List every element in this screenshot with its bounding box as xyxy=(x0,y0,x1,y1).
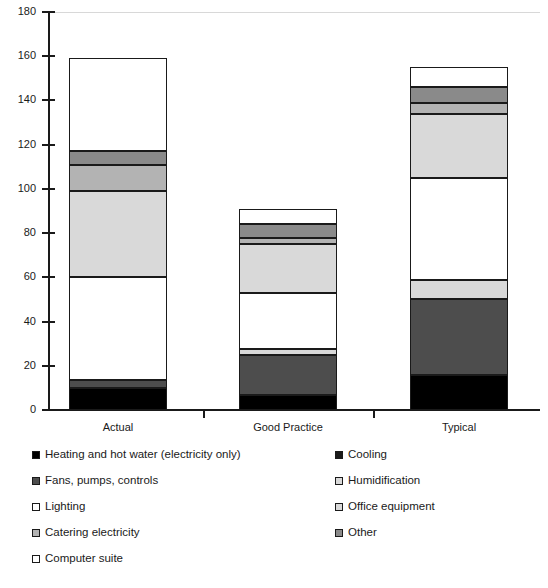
legend-swatch-icon xyxy=(32,529,40,537)
x-axis-category-label: Actual xyxy=(58,421,178,433)
bar-segment-humidification xyxy=(410,280,508,300)
bar-segment-other xyxy=(239,224,337,237)
stacked-bar-chart: 020406080100120140160180 ActualGood Prac… xyxy=(0,0,548,588)
legend-item[interactable]: Humidification xyxy=(335,474,420,487)
x-axis-category-label: Typical xyxy=(399,421,519,433)
bar-actual xyxy=(69,12,167,410)
bar-segment-office-equipment xyxy=(410,114,508,178)
bar-segment-other xyxy=(410,87,508,102)
y-axis-tick-label: 140 xyxy=(2,94,36,105)
legend-item[interactable]: Lighting xyxy=(32,500,85,513)
legend-swatch-icon xyxy=(32,555,40,563)
legend-swatch-icon xyxy=(335,529,343,537)
y-axis-tick-label: 80 xyxy=(2,227,36,238)
bar-segment-computer-suite xyxy=(69,58,167,151)
legend-item[interactable]: Office equipment xyxy=(335,500,435,513)
legend-label: Cooling xyxy=(348,448,387,461)
legend-swatch-icon xyxy=(335,477,343,485)
bar-good-practice xyxy=(239,12,337,410)
legend-label: Other xyxy=(348,526,377,539)
y-axis-tick-label: 60 xyxy=(2,271,36,282)
y-axis-tick-label: 160 xyxy=(2,50,36,61)
bar-segment-fans-pumps-controls xyxy=(69,380,167,388)
bar-segment-heating-and-hot-water-electricity-only xyxy=(69,388,167,410)
legend-label: Heating and hot water (electricity only) xyxy=(45,448,241,461)
bar-typical xyxy=(410,12,508,410)
bar-segment-catering-electricity xyxy=(239,238,337,245)
legend-label: Humidification xyxy=(348,474,420,487)
legend-label: Catering electricity xyxy=(45,526,140,539)
y-axis-tick-label: 40 xyxy=(2,316,36,327)
legend-item[interactable]: Computer suite xyxy=(32,552,123,565)
legend-item[interactable]: Other xyxy=(335,526,377,539)
y-axis-tick-label: 20 xyxy=(2,360,36,371)
x-axis-tick xyxy=(203,409,205,418)
bar-segment-heating-and-hot-water-electricity-only xyxy=(410,375,508,410)
legend-item[interactable]: Cooling xyxy=(335,448,387,461)
y-axis-tick-label: 180 xyxy=(2,6,36,17)
y-axis-tick-label: 0 xyxy=(2,404,36,415)
bar-segment-lighting xyxy=(410,178,508,280)
legend-label: Fans, pumps, controls xyxy=(45,474,158,487)
legend-label: Computer suite xyxy=(45,552,123,565)
legend-swatch-icon xyxy=(335,503,343,511)
bar-segment-humidification xyxy=(239,349,337,355)
bar-segment-heating-and-hot-water-electricity-only xyxy=(239,395,337,410)
bar-segment-other xyxy=(69,151,167,164)
bar-segment-computer-suite xyxy=(410,67,508,87)
bar-segment-computer-suite xyxy=(239,209,337,224)
legend-label: Office equipment xyxy=(348,500,435,513)
bar-segment-fans-pumps-controls xyxy=(410,299,508,374)
legend-swatch-icon xyxy=(32,477,40,485)
chart-legend: Heating and hot water (electricity only)… xyxy=(32,448,532,572)
y-axis-tick-label: 100 xyxy=(2,183,36,194)
bar-segment-office-equipment xyxy=(69,191,167,277)
bar-segment-lighting xyxy=(239,293,337,349)
x-axis-tick xyxy=(373,409,375,418)
legend-item[interactable]: Heating and hot water (electricity only) xyxy=(32,448,241,461)
legend-swatch-icon xyxy=(32,503,40,511)
plot-area xyxy=(48,12,540,410)
bar-segment-lighting xyxy=(69,277,167,380)
x-axis-category-label: Good Practice xyxy=(228,421,348,433)
bar-segment-catering-electricity xyxy=(410,103,508,114)
y-axis-tick-label: 120 xyxy=(2,139,36,150)
legend-item[interactable]: Catering electricity xyxy=(32,526,140,539)
bar-segment-fans-pumps-controls xyxy=(239,355,337,395)
legend-label: Lighting xyxy=(45,500,85,513)
legend-item[interactable]: Fans, pumps, controls xyxy=(32,474,158,487)
legend-swatch-icon xyxy=(32,451,40,459)
bar-segment-catering-electricity xyxy=(69,165,167,192)
bars-container xyxy=(48,12,540,410)
bar-segment-office-equipment xyxy=(239,244,337,293)
legend-swatch-icon xyxy=(335,451,343,459)
